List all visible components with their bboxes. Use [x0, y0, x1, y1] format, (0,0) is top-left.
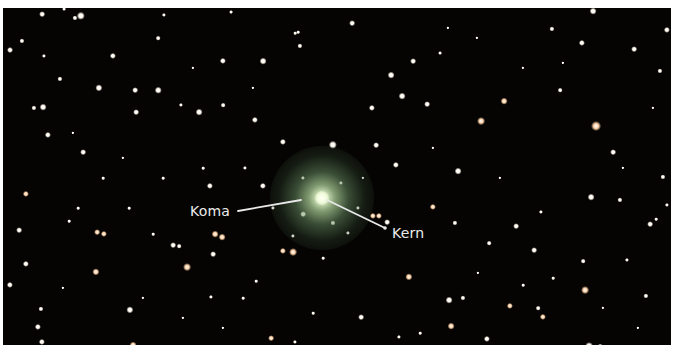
- star: [260, 58, 267, 65]
- star: [289, 248, 297, 256]
- star: [636, 326, 639, 329]
- star: [183, 263, 191, 271]
- star: [664, 27, 670, 33]
- star: [521, 66, 524, 69]
- star: [101, 176, 105, 180]
- star: [23, 261, 29, 267]
- star: [438, 51, 442, 55]
- star: [590, 8, 597, 14]
- star: [201, 166, 205, 170]
- star: [588, 194, 595, 201]
- star: [665, 203, 669, 207]
- star: [373, 142, 379, 148]
- star: [141, 296, 144, 299]
- star: [446, 297, 453, 304]
- star: [475, 36, 478, 39]
- star: [251, 86, 254, 89]
- star: [293, 340, 297, 344]
- star: [221, 103, 226, 108]
- star: [430, 204, 436, 210]
- star: [212, 231, 219, 238]
- star: [126, 306, 133, 313]
- star: [581, 286, 589, 294]
- star: [156, 36, 161, 41]
- star: [221, 326, 224, 329]
- star: [647, 221, 653, 227]
- star: [127, 206, 131, 210]
- star: [610, 149, 616, 155]
- star: [521, 283, 525, 287]
- star: [207, 183, 213, 189]
- star: [94, 229, 100, 235]
- star: [349, 20, 355, 26]
- star: [101, 231, 107, 237]
- star: [133, 109, 139, 115]
- star: [31, 105, 36, 110]
- star: [358, 314, 364, 320]
- star: [243, 166, 247, 170]
- star: [40, 104, 47, 111]
- star: [77, 12, 85, 20]
- star: [410, 58, 416, 64]
- star: [280, 248, 286, 254]
- star: [72, 15, 77, 20]
- star: [431, 146, 434, 149]
- star: [92, 268, 99, 275]
- star: [446, 26, 449, 29]
- star: [460, 295, 465, 300]
- star: [67, 219, 71, 223]
- star: [254, 279, 258, 283]
- star: [155, 87, 162, 94]
- star: [631, 46, 637, 52]
- star: [241, 296, 245, 300]
- star: [643, 293, 648, 298]
- comet-nucleus: [315, 191, 329, 205]
- star: [561, 61, 564, 64]
- star: [181, 316, 184, 319]
- star: [536, 306, 541, 311]
- star: [62, 8, 66, 11]
- star: [177, 244, 182, 249]
- star: [651, 106, 654, 109]
- star: [220, 58, 226, 64]
- star: [585, 342, 593, 345]
- star: [297, 43, 302, 48]
- star: [7, 282, 13, 288]
- star: [601, 306, 604, 309]
- star: [296, 30, 300, 34]
- star: [581, 259, 586, 264]
- star: [654, 217, 658, 221]
- koma-label: Koma: [190, 203, 230, 219]
- star: [16, 227, 22, 233]
- star: [498, 176, 501, 179]
- kern-label: Kern: [392, 225, 424, 241]
- star: [19, 38, 24, 43]
- star: [151, 232, 155, 236]
- star: [80, 149, 86, 155]
- star: [179, 103, 183, 107]
- star: [384, 219, 390, 225]
- star: [418, 331, 422, 335]
- star: [393, 162, 399, 168]
- star: [110, 53, 116, 59]
- star: [321, 256, 325, 260]
- star: [549, 26, 554, 31]
- star: [196, 109, 203, 116]
- star: [484, 336, 490, 342]
- star: [38, 306, 43, 311]
- star: [71, 131, 74, 134]
- star: [660, 174, 665, 179]
- star: [311, 311, 315, 315]
- star: [162, 13, 166, 17]
- star: [625, 258, 629, 262]
- star: [7, 47, 13, 53]
- star: [388, 72, 395, 79]
- star: [219, 234, 226, 241]
- star: [501, 98, 508, 105]
- star: [39, 11, 45, 17]
- star: [598, 344, 603, 345]
- star: [617, 197, 622, 202]
- star: [376, 213, 382, 219]
- star: [191, 66, 194, 69]
- star: [540, 314, 546, 320]
